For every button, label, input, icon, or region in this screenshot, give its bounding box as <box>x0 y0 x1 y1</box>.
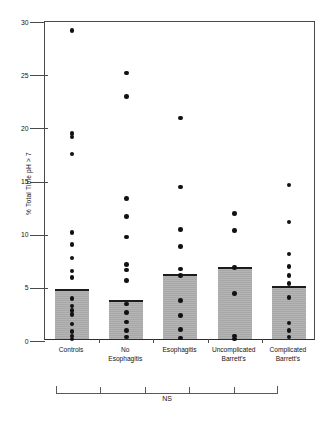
x-axis-label-line: Esophagitis <box>98 355 152 364</box>
data-point <box>287 183 292 188</box>
x-axis-label-line: Barrett's <box>261 355 315 364</box>
data-point <box>124 302 129 307</box>
y-axis-tick: 25 <box>30 75 45 76</box>
significance-bracket-tick <box>145 387 146 394</box>
significance-bracket-tick <box>189 387 190 394</box>
significance-bracket: NS <box>56 385 278 407</box>
significance-label: NS <box>56 395 278 402</box>
data-point <box>70 337 75 342</box>
x-axis-label-line: Uncomplicated <box>207 346 261 355</box>
x-axis-label-1: NoEsophagitis <box>98 346 152 363</box>
y-axis-tick: 5 <box>30 288 45 289</box>
x-axis-tick <box>99 339 100 343</box>
y-axis-tick-label: 30 <box>21 19 29 27</box>
data-point <box>124 71 129 76</box>
y-axis-tick: 15 <box>30 182 45 183</box>
x-axis-label-2: Esophagitis <box>152 346 206 355</box>
data-point <box>178 227 183 232</box>
category-group <box>262 22 316 339</box>
data-point <box>124 235 129 240</box>
significance-bracket-line <box>56 393 278 394</box>
data-point <box>70 135 75 140</box>
mean-bar <box>218 267 252 339</box>
x-axis-label-4: ComplicatedBarrett's <box>261 346 315 363</box>
data-point <box>178 244 183 249</box>
category-group <box>99 22 153 339</box>
significance-bracket-tick <box>234 387 235 394</box>
x-axis-label-line: Controls <box>44 346 98 355</box>
y-axis-tick-label: 5 <box>25 284 29 292</box>
data-point <box>178 336 183 341</box>
data-point <box>124 196 129 201</box>
data-point <box>124 214 129 219</box>
y-axis-tick-label: 10 <box>21 231 29 239</box>
data-point <box>287 273 292 278</box>
data-point <box>287 281 292 286</box>
data-point <box>178 267 183 272</box>
data-point <box>124 310 129 315</box>
significance-bracket-tick <box>100 387 101 394</box>
data-point <box>232 228 237 233</box>
x-axis-tick <box>208 339 209 343</box>
significance-bracket-tick <box>56 386 57 394</box>
x-axis-tick <box>262 339 263 343</box>
data-point <box>287 328 292 333</box>
data-point <box>70 152 75 157</box>
category-group <box>153 22 207 339</box>
data-point <box>124 328 129 333</box>
data-point <box>124 278 129 283</box>
data-point <box>232 337 237 342</box>
x-axis-label-line: Barrett's <box>207 355 261 364</box>
data-point <box>70 269 75 274</box>
data-point <box>70 230 75 235</box>
data-point <box>124 94 129 99</box>
data-point <box>178 327 183 332</box>
data-point <box>178 313 183 318</box>
x-axis-labels: ControlsNoEsophagitisEsophagitisUncompli… <box>44 346 315 372</box>
y-axis-tick: 30 <box>30 22 45 23</box>
data-point <box>178 273 183 278</box>
data-point <box>124 262 129 267</box>
data-point <box>178 298 183 303</box>
data-point <box>70 275 75 280</box>
data-point <box>287 295 292 300</box>
x-axis-label-3: UncomplicatedBarrett's <box>207 346 261 363</box>
y-axis-tick-label: 0 <box>25 338 29 346</box>
x-axis-label-line: Esophagitis <box>152 346 206 355</box>
data-point <box>287 252 292 257</box>
data-point <box>70 28 75 33</box>
category-group <box>208 22 262 339</box>
data-point <box>124 320 129 325</box>
data-point <box>232 211 237 216</box>
data-point <box>124 268 129 273</box>
y-axis-tick-label: 15 <box>21 178 29 186</box>
plot-area: 051015202530 <box>44 21 315 340</box>
significance-bracket-tick <box>277 386 278 394</box>
x-axis-label-0: Controls <box>44 346 98 355</box>
y-axis-tick: 10 <box>30 235 45 236</box>
y-axis-tick: 0 <box>30 341 45 342</box>
category-group <box>45 22 99 339</box>
data-point <box>232 291 237 296</box>
data-point <box>178 116 183 121</box>
data-point <box>178 185 183 190</box>
y-axis-tick-label: 20 <box>21 125 29 133</box>
x-axis-label-line: Complicated <box>261 346 315 355</box>
y-axis-tick: 20 <box>30 128 45 129</box>
data-point <box>287 220 292 225</box>
data-point <box>70 242 75 247</box>
data-point <box>232 265 237 270</box>
data-point <box>124 335 129 340</box>
data-point <box>70 256 75 261</box>
x-axis-label-line: No <box>98 346 152 355</box>
chart-figure: % Total Time pH > 7 051015202530 Control… <box>0 0 324 425</box>
data-point <box>287 264 292 269</box>
y-axis-tick-label: 25 <box>21 72 29 80</box>
x-axis-tick <box>153 339 154 343</box>
